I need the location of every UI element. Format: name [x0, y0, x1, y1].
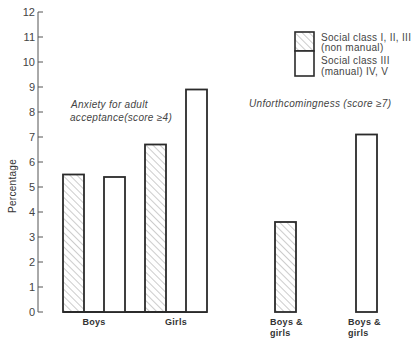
bar-girls-nonmanual — [145, 145, 166, 313]
bar-unforth-manual — [356, 135, 377, 313]
y-tick-label: 6 — [29, 156, 35, 168]
bar-girls-manual — [186, 90, 207, 313]
annotation-unforthcomingness: Unforthcomingness (score ≥7) — [249, 98, 391, 109]
y-tick-label: 4 — [29, 206, 35, 218]
legend-swatch-hatched — [295, 32, 314, 51]
unforth-bars — [275, 135, 377, 313]
legend-label-manual-1: Social class III — [321, 55, 390, 66]
bar-boys-nonmanual — [63, 175, 84, 313]
y-tick-label: 2 — [29, 256, 35, 268]
y-axis: 0123456789101112 Percentage — [7, 6, 43, 318]
category-label-boys-girls-1: Boys & — [270, 317, 303, 327]
y-tick-label: 9 — [29, 81, 35, 93]
legend-label-manual-2: (manual) IV, V — [321, 66, 388, 77]
category-label-boys-girls-2b: girls — [348, 328, 369, 338]
legend: Social class I, II, III (non manual) Soc… — [295, 32, 411, 77]
bar-unforth-nonmanual — [275, 222, 296, 312]
category-label-girls: Girls — [165, 317, 187, 327]
legend-label-nonmanual-2: (non manual) — [321, 42, 384, 53]
y-tick-label: 8 — [29, 106, 35, 118]
y-tick-label: 0 — [29, 306, 35, 318]
annotation-anxiety-line2: acceptance(score ≥4) — [70, 112, 172, 123]
category-label-boys-girls-1b: girls — [270, 328, 291, 338]
y-axis-label: Percentage — [7, 159, 18, 213]
y-tick-label: 1 — [29, 281, 35, 293]
y-tick-label: 5 — [29, 181, 35, 193]
y-tick-label: 7 — [29, 131, 35, 143]
legend-swatch-white — [295, 51, 314, 76]
category-label-boys: Boys — [82, 317, 105, 327]
y-tick-label: 12 — [23, 6, 35, 18]
y-tick-label: 3 — [29, 231, 35, 243]
y-tick-label: 10 — [23, 56, 35, 68]
category-label-boys-girls-2: Boys & — [348, 317, 381, 327]
bar-chart: 0123456789101112 Percentage Boys Girls B… — [0, 0, 419, 344]
annotation-anxiety-line1: Anxiety for adult — [70, 99, 149, 110]
y-tick-label: 11 — [24, 31, 35, 43]
bar-boys-manual — [104, 177, 125, 312]
